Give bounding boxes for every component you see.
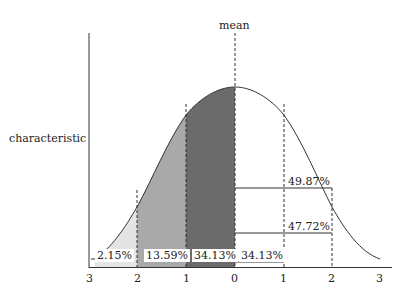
normal-distribution-diagram: mean characteristic 2.15% 13.59% 34.13% … <box>0 0 408 300</box>
region-mid <box>137 115 186 267</box>
region-label-tail: 2.15% <box>95 249 134 262</box>
region-center <box>186 87 235 267</box>
cumulative-label-3sigma: 49.87% <box>288 175 330 188</box>
x-tick-label: 1 <box>280 272 287 285</box>
region-label-right: 34.13% <box>239 249 285 262</box>
x-tick-label: 0 <box>231 272 238 285</box>
x-tick-label: 1 <box>183 272 190 285</box>
region-label-mid: 13.59% <box>144 249 190 262</box>
y-axis-label: characteristic <box>9 132 86 145</box>
mean-label: mean <box>219 19 250 32</box>
x-tick-label: 2 <box>328 272 335 285</box>
x-tick-label: 3 <box>86 272 93 285</box>
region-label-center: 34.13% <box>192 249 238 262</box>
x-tick-label: 2 <box>134 272 141 285</box>
cumulative-label-2sigma: 47.72% <box>288 220 330 233</box>
x-tick-label: 3 <box>376 272 383 285</box>
